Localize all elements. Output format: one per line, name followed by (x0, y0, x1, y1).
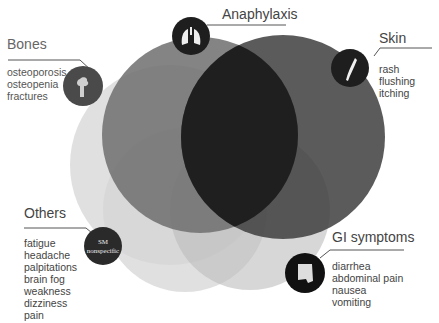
gi-items: diarrhea abdominal pain nausea vomiting (332, 260, 403, 308)
bones-items: osteoporosis osteopenia fractures (7, 66, 67, 102)
gi-item: diarrhea (332, 260, 403, 272)
others-item: weakness (24, 285, 77, 297)
bones-item: fractures (7, 90, 67, 102)
group-title-bones: Bones (7, 36, 47, 52)
skin-leader-line (374, 48, 432, 56)
skin-item: itching (379, 87, 415, 99)
others-item: headache (24, 249, 77, 261)
skin-icon (331, 49, 369, 87)
intestine-icon (285, 253, 325, 293)
gi-item: abdominal pain (332, 272, 403, 284)
others-item: palpitations (24, 261, 77, 273)
skin-item: flushing (379, 75, 415, 87)
others-item: dizziness (24, 297, 77, 309)
bones-item: osteopenia (7, 78, 67, 90)
bone-icon (63, 66, 103, 106)
skin-items: rash flushing itching (379, 63, 415, 99)
svg-text:nonspecific: nonspecific (87, 247, 119, 255)
gi-leader-line (320, 250, 404, 258)
bones-item: osteoporosis (7, 66, 67, 78)
group-title-others: Others (24, 205, 66, 221)
others-item: brain fog (24, 273, 77, 285)
others-item: pain (24, 309, 77, 321)
skin-item: rash (379, 63, 415, 75)
gi-item: vomiting (332, 296, 403, 308)
others-items: fatigue headache palpitations brain fog … (24, 237, 77, 321)
svg-text:SM: SM (98, 238, 109, 246)
others-item: fatigue (24, 237, 77, 249)
gi-item: nausea (332, 284, 403, 296)
group-title-skin: Skin (379, 30, 406, 46)
sm-nonspecific-badge: SM nonspecific (84, 227, 122, 265)
group-title-anaphylaxis: Anaphylaxis (222, 6, 298, 22)
group-title-gi: GI symptoms (332, 229, 414, 245)
lungs-icon (172, 17, 210, 55)
